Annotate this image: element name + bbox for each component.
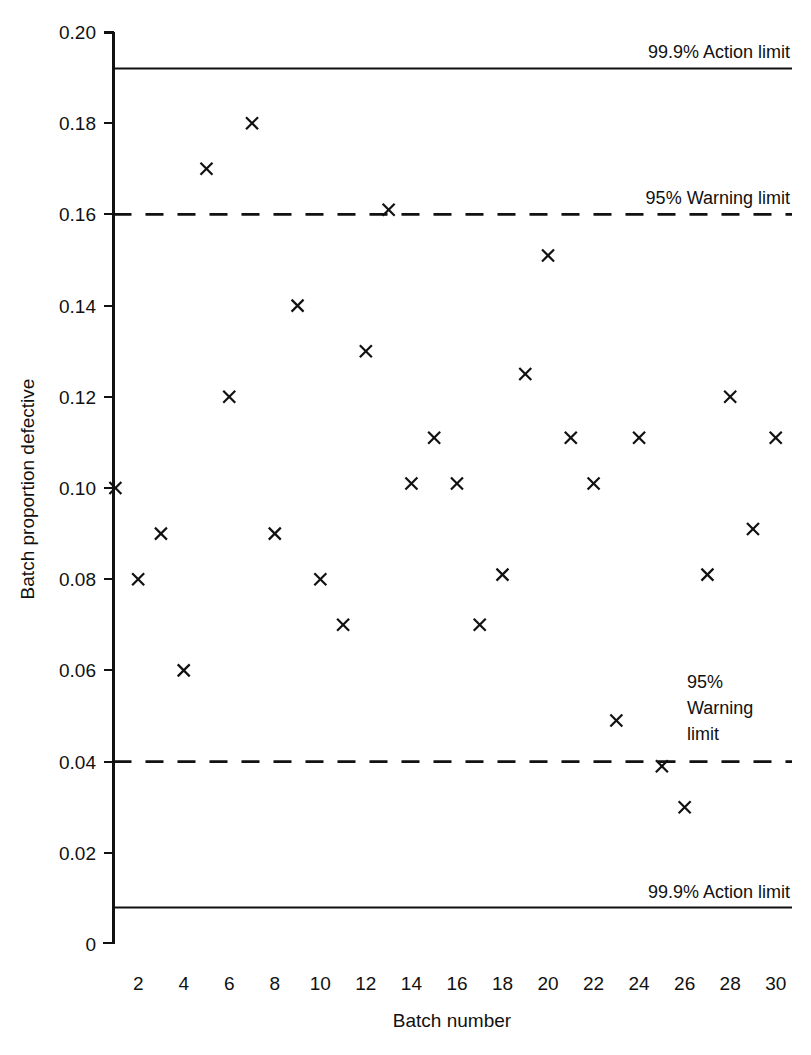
- limit-label-upper-action-limit: 99.9% Action limit: [648, 42, 790, 62]
- x-tick-label: 26: [674, 973, 695, 994]
- data-point: [246, 117, 258, 129]
- data-point: [451, 477, 463, 489]
- data-point: [155, 528, 167, 540]
- data-point: [588, 477, 600, 489]
- y-tick-label: 0.18: [59, 113, 96, 134]
- limit-label-lower-action-limit: 99.9% Action limit: [648, 882, 790, 902]
- data-point: [747, 523, 759, 535]
- data-point: [496, 569, 508, 581]
- x-tick-label: 16: [446, 973, 467, 994]
- x-tick-label: 18: [492, 973, 513, 994]
- x-axis-tick-labels: 24681012141618202224262830: [133, 973, 786, 994]
- x-tick-label: 12: [355, 973, 376, 994]
- x-tick-label: 10: [310, 973, 331, 994]
- data-point: [565, 432, 577, 444]
- data-point: [269, 528, 281, 540]
- limit-label-lower-warning-limit: limit: [687, 724, 719, 744]
- y-tick-label: 0.20: [59, 22, 96, 43]
- data-point: [383, 204, 395, 216]
- data-point: [337, 619, 349, 631]
- x-tick-label: 2: [133, 973, 144, 994]
- y-tick-label: 0.06: [59, 660, 96, 681]
- y-tick-label: 0.16: [59, 204, 96, 225]
- x-tick-label: 6: [224, 973, 235, 994]
- x-tick-label: 8: [270, 973, 281, 994]
- x-tick-label: 24: [629, 973, 651, 994]
- x-tick-label: 4: [178, 973, 189, 994]
- data-point: [178, 664, 190, 676]
- data-point: [223, 391, 235, 403]
- y-tick-label: 0.04: [59, 752, 96, 773]
- limit-label-lower-warning-limit: 95%: [687, 672, 723, 692]
- data-point: [360, 345, 372, 357]
- data-point: [428, 432, 440, 444]
- y-axis-tick-marks: [104, 32, 114, 853]
- x-tick-label: 14: [401, 973, 423, 994]
- y-axis-tick-labels: 00.020.040.060.080.100.120.140.160.180.2…: [59, 22, 96, 955]
- data-point: [701, 569, 713, 581]
- control-chart: 00.020.040.060.080.100.120.140.160.180.2…: [0, 0, 811, 1055]
- limit-label-lower-warning-limit: Warning: [687, 698, 753, 718]
- data-point: [679, 801, 691, 813]
- data-point: [519, 368, 531, 380]
- data-point: [542, 249, 554, 261]
- x-tick-label: 28: [720, 973, 741, 994]
- data-point: [314, 573, 326, 585]
- data-point: [132, 573, 144, 585]
- data-point: [610, 715, 622, 727]
- y-tick-label: 0.12: [59, 387, 96, 408]
- y-tick-label: 0.02: [59, 843, 96, 864]
- y-tick-label: 0.10: [59, 478, 96, 499]
- y-tick-label: 0: [85, 934, 96, 955]
- data-point: [724, 391, 736, 403]
- y-tick-label: 0.08: [59, 569, 96, 590]
- data-point: [633, 432, 645, 444]
- data-point-markers: [109, 117, 781, 813]
- data-point: [200, 163, 212, 175]
- x-tick-label: 22: [583, 973, 604, 994]
- x-tick-label: 30: [765, 973, 786, 994]
- x-axis-title: Batch number: [393, 1010, 512, 1031]
- x-tick-label: 20: [537, 973, 558, 994]
- limit-label-upper-warning-limit: 95% Warning limit: [646, 188, 790, 208]
- chart-page: 00.020.040.060.080.100.120.140.160.180.2…: [0, 0, 811, 1055]
- y-axis-title: Batch proportion defective: [17, 379, 38, 600]
- data-point: [405, 477, 417, 489]
- y-tick-label: 0.14: [59, 296, 96, 317]
- data-point: [474, 619, 486, 631]
- data-point: [292, 300, 304, 312]
- data-point: [770, 432, 782, 444]
